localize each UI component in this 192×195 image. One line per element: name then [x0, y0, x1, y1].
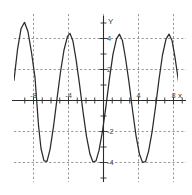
y-tick-label-4: 4: [107, 34, 111, 43]
graph-figure: Y x -8 -4 4 8 4 2 -2 -4: [0, 0, 192, 195]
x-tick-label-neg8: -8: [30, 91, 37, 100]
chart-background: [0, 0, 192, 195]
y-tick-label-neg4: -4: [107, 158, 114, 167]
coordinate-plane-chart: Y x -8 -4 4 8 4 2 -2 -4: [0, 0, 192, 195]
x-tick-label-neg4: -4: [65, 91, 72, 100]
x-tick-label-4: 4: [136, 91, 140, 100]
x-axis-label: x: [178, 91, 182, 100]
y-tick-label-2: 2: [107, 65, 111, 74]
y-tick-label-neg2: -2: [107, 127, 114, 136]
y-axis-label: Y: [108, 17, 114, 26]
x-tick-label-8: 8: [171, 91, 175, 100]
